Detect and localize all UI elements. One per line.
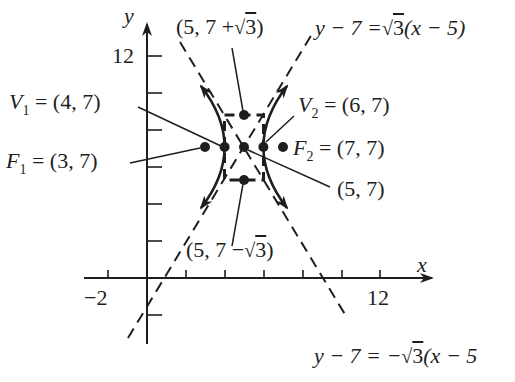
asymptote-negative-label: y − 7 = −√3(x − 5 <box>314 345 477 367</box>
y-tick-label-12: 12 <box>112 45 134 67</box>
x-axis-label: x <box>417 254 427 276</box>
hyperbola-figure <box>0 0 515 382</box>
focus-f2-point <box>278 142 288 152</box>
y-axis <box>147 24 162 344</box>
vertex-v1-label: V1 = (4, 7) <box>9 91 101 113</box>
center-point <box>239 142 249 152</box>
vertex-v2-label: V2 = (6, 7) <box>298 94 390 116</box>
vertex-v1-point <box>220 142 230 152</box>
focus-f1-label: F1 = (3, 7) <box>6 150 98 172</box>
top-point-label: (5, 7 +√3) <box>176 16 264 38</box>
focus-f2-label: F2 = (7, 7) <box>293 137 385 159</box>
points <box>200 110 288 185</box>
top-point <box>239 110 249 120</box>
center-label: (5, 7) <box>337 178 385 200</box>
asymptote-positive-slope <box>128 34 312 338</box>
x-tick-label-12: 12 <box>367 287 389 309</box>
hyperbola-right-branch <box>263 86 287 147</box>
x-axis <box>84 270 432 278</box>
vertex-v2-point <box>258 142 268 152</box>
asymptote-positive-label: y − 7 =√3(x − 5) <box>315 17 465 39</box>
bottom-point-label: (5, 7 −√3) <box>186 239 274 261</box>
y-axis-label: y <box>124 5 134 27</box>
y-axis-ticks <box>147 56 162 315</box>
bottom-point <box>239 175 249 185</box>
x-axis-ticks <box>108 270 380 278</box>
x-tick-label-neg2: −2 <box>84 287 107 309</box>
focus-f1-point <box>200 142 210 152</box>
